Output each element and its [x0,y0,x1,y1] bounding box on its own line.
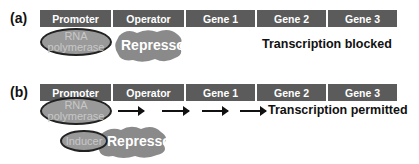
rna-polymerase-label-a: RNA polymerase [40,31,112,53]
arrow-icon [202,110,228,112]
segment-operator: Operator [113,84,184,101]
segment-gene-3: Gene 3 [328,10,397,27]
status-text-a: Transcription blocked [262,37,392,51]
segment-gene-1: Gene 1 [186,84,255,101]
status-text-b: Transcription permitted [268,103,408,117]
inducer-label: Inducer [60,136,108,147]
segment-gene-3: Gene 3 [328,84,397,101]
segment-gene-1: Gene 1 [186,10,255,27]
repressor-label-b: Repressor [107,133,176,149]
repressor-label-a: Repressor [121,37,190,53]
arrow-icon [118,110,144,112]
segment-gene-2: Gene 2 [257,10,326,27]
rna-polymerase-label-b: RNA polymerase [40,100,112,122]
arrow-icon [162,110,189,112]
panel-a-label: (a) [10,10,27,26]
panel-b-label: (b) [10,84,28,100]
rna-line2: polymerase [40,111,112,122]
segment-operator: Operator [113,10,184,27]
segment-gene-2: Gene 2 [257,84,326,101]
operon-bar-a: Promoter Operator Gene 1 Gene 2 Gene 3 [40,10,399,27]
arrow-icon [240,110,266,112]
rna-line2: polymerase [40,42,112,53]
segment-promoter: Promoter [40,10,111,27]
